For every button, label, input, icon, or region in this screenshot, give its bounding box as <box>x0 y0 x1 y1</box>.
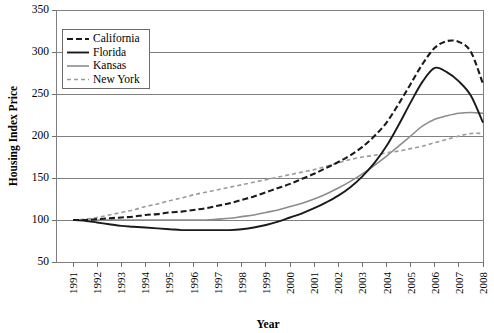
x-tick-label-1992: 1992 <box>91 272 103 294</box>
x-tick-label-2006: 2006 <box>429 272 441 295</box>
y-axis-title: Housing Index Price <box>7 86 20 186</box>
x-tick-label-2002: 2002 <box>332 272 344 294</box>
legend-label-kansas: Kansas <box>93 59 127 71</box>
x-tick-label-1991: 1991 <box>67 272 79 294</box>
chart-canvas: 50100150200250300350 1991199219931994199… <box>0 0 494 333</box>
y-tick-label-300: 300 <box>32 45 50 57</box>
chart-legend: CaliforniaFloridaKansasNew York <box>62 29 149 88</box>
series-line-florida <box>73 68 483 231</box>
y-tick-label-150: 150 <box>32 171 50 183</box>
y-tick-label-350: 350 <box>32 3 50 15</box>
x-axis-title: Year <box>257 318 280 330</box>
y-tick-label-50: 50 <box>38 255 50 267</box>
housing-index-price-chart: 50100150200250300350 1991199219931994199… <box>0 0 494 333</box>
legend-label-new-york: New York <box>93 73 140 85</box>
x-tick-label-2008: 2008 <box>477 272 489 295</box>
x-tick-label-1993: 1993 <box>115 272 127 295</box>
x-tick-label-2005: 2005 <box>405 272 417 295</box>
legend-label-florida: Florida <box>93 46 126 58</box>
legend-label-california: California <box>93 32 140 44</box>
y-tick-label-200: 200 <box>32 129 50 141</box>
x-tick-label-1995: 1995 <box>163 272 175 295</box>
x-tick-label-2000: 2000 <box>284 272 296 295</box>
x-tick-label-2007: 2007 <box>453 272 465 295</box>
x-tick-label-2001: 2001 <box>308 272 320 294</box>
x-tick-label-1994: 1994 <box>139 272 151 295</box>
series-line-new-york <box>73 133 483 220</box>
x-axis: 1991199219931994199519961997199819992000… <box>56 262 489 294</box>
series-line-kansas <box>73 112 483 220</box>
y-tick-label-250: 250 <box>32 87 50 99</box>
x-tick-label-2004: 2004 <box>381 272 393 295</box>
x-tick-label-1997: 1997 <box>212 272 224 295</box>
y-tick-label-100: 100 <box>32 213 50 225</box>
x-tick-label-1999: 1999 <box>260 272 272 295</box>
x-tick-label-1998: 1998 <box>236 272 248 295</box>
x-tick-label-1996: 1996 <box>188 272 200 295</box>
x-tick-label-2003: 2003 <box>356 272 368 295</box>
